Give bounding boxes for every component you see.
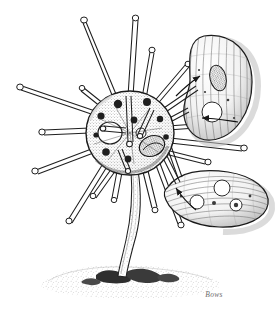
prey-upper-ciliate [182, 34, 258, 144]
heliozoan-figure: Bows [0, 0, 278, 313]
heliozoan-cell-body [86, 91, 174, 175]
prey-lower-vacuole-1 [214, 180, 230, 196]
artist-signature: Bows [205, 290, 222, 299]
illustration-canvas: Bows Stalked heliozoan capturing ciliate… [0, 0, 278, 313]
cell-contractile-vacuole [98, 122, 122, 144]
